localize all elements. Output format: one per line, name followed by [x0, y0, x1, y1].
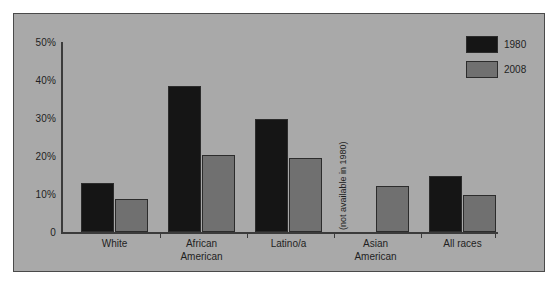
x-axis-separator-tick [247, 232, 248, 238]
not-available-note: (not available in 1980) [338, 141, 348, 230]
legend-item-1980[interactable]: 1980 [466, 36, 536, 53]
x-axis-label-african-american: African American [163, 238, 240, 263]
x-axis-label-all-races: All races [424, 238, 501, 251]
bar-white-2008[interactable] [115, 199, 148, 232]
bar-african-american-1980[interactable] [168, 86, 201, 232]
bar-white-1980[interactable] [81, 183, 114, 232]
y-tick-label-0: 0 [50, 227, 56, 238]
bar-african-american-2008[interactable] [202, 155, 235, 232]
bar-group-latino [255, 42, 322, 232]
legend-swatch-1980 [466, 36, 498, 53]
legend-label-2008: 2008 [504, 64, 526, 75]
legend-swatch-2008 [466, 61, 498, 78]
chart-legend: 1980 2008 [466, 36, 536, 86]
y-axis-line [61, 42, 63, 233]
legend-item-2008[interactable]: 2008 [466, 61, 536, 78]
bar-asian-american-2008[interactable] [376, 186, 409, 232]
y-tick-label-30: 30% [35, 113, 56, 124]
x-axis-separator-tick [334, 232, 335, 238]
y-tick-label-40: 40% [35, 75, 56, 86]
x-axis-separator-tick [421, 232, 422, 238]
x-axis-separator-tick [160, 232, 161, 238]
plot-area: 0 10% 20% 30% 40% 50% White African Amer… [61, 42, 498, 232]
x-axis-line [61, 232, 498, 234]
bar-group-african-american [168, 42, 235, 232]
bar-group-white [81, 42, 148, 232]
bar-all-races-2008[interactable] [463, 195, 496, 232]
x-axis-label-asian-american: Asian American [337, 238, 414, 263]
y-tick-label-50: 50% [35, 37, 56, 48]
y-tick-label-10: 10% [35, 189, 56, 200]
bar-chart-figure: 0 10% 20% 30% 40% 50% White African Amer… [13, 13, 545, 272]
bar-all-races-1980[interactable] [429, 176, 462, 232]
y-tick-label-20: 20% [35, 151, 56, 162]
bar-latino-1980[interactable] [255, 119, 288, 232]
x-axis-label-latino: Latino/a [255, 238, 322, 251]
bar-group-asian-american: (not available in 1980) [342, 42, 409, 232]
x-axis-label-white: White [81, 238, 148, 251]
bar-latino-2008[interactable] [289, 158, 322, 233]
legend-label-1980: 1980 [504, 39, 526, 50]
